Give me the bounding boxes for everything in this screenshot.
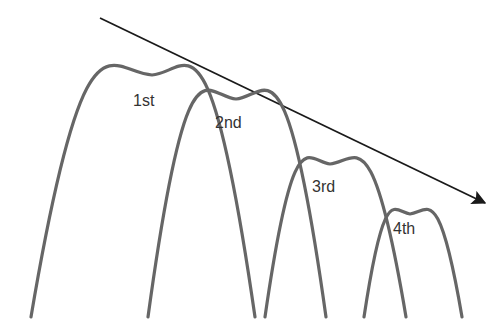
- diagram-canvas: 1st 2nd 3rd 4th: [0, 0, 498, 328]
- label-4th: 4th: [393, 220, 415, 238]
- label-3rd: 3rd: [312, 178, 335, 196]
- label-2nd: 2nd: [215, 114, 242, 132]
- curve-3rd: [265, 158, 406, 317]
- label-1st: 1st: [133, 92, 154, 110]
- diagram-svg: [0, 0, 498, 328]
